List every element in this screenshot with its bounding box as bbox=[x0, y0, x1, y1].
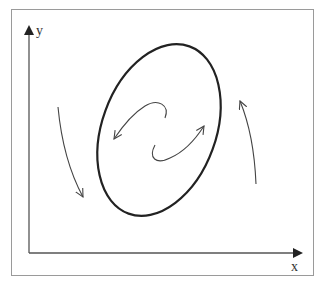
outer-trajectory-left-arrow bbox=[58, 107, 83, 197]
inner-spiral-lower-arrow bbox=[152, 126, 204, 161]
inner-spiral-upper-arrow bbox=[114, 103, 166, 139]
outer-trajectory-right-arrow bbox=[240, 101, 256, 184]
x-axis-label: x bbox=[291, 260, 298, 274]
axes bbox=[29, 27, 301, 253]
y-axis-label: y bbox=[36, 24, 43, 38]
phase-portrait-diagram bbox=[0, 0, 324, 285]
limit-cycle-ellipse bbox=[75, 27, 243, 233]
